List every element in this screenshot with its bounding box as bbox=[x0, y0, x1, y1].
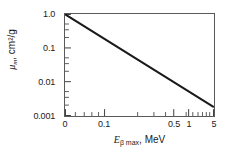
chart-figure: 1.0 0.1 0.01 0.001 μm, cm²/g bbox=[0, 0, 235, 156]
y-tick-label: 0.01 bbox=[38, 78, 55, 87]
x-tick-label: 5 bbox=[212, 119, 217, 129]
plot-area bbox=[64, 13, 215, 117]
x-axis-units: MeV bbox=[145, 134, 166, 145]
x-axis-title: Eβ max, MeV bbox=[64, 134, 215, 148]
y-axis-comma: , bbox=[6, 54, 17, 60]
y-minor-ticks bbox=[65, 24, 69, 105]
y-axis-symbol: μ bbox=[6, 65, 17, 70]
y-axis-subscript: m bbox=[11, 60, 19, 65]
plot-svg bbox=[65, 14, 214, 116]
y-axis-title: μm, cm²/g bbox=[6, 7, 21, 93]
data-line bbox=[66, 15, 213, 107]
x-minor-ticks bbox=[75, 112, 209, 116]
y-tick-label: 1.0 bbox=[43, 10, 55, 19]
x-tick-label: 0.5 bbox=[168, 119, 180, 129]
y-tick-label: 0.1 bbox=[43, 44, 55, 53]
y-axis-units: cm²/g bbox=[6, 29, 17, 54]
x-tick-label: 0 bbox=[63, 119, 68, 129]
x-axis-subscript: β max bbox=[120, 139, 139, 146]
x-major-ticks bbox=[65, 109, 213, 116]
x-axis-tick-labels: 0 0.1 0.5 1 5 bbox=[0, 119, 235, 133]
x-tick-label: 1 bbox=[187, 119, 192, 129]
x-tick-label: 0.1 bbox=[98, 119, 110, 129]
